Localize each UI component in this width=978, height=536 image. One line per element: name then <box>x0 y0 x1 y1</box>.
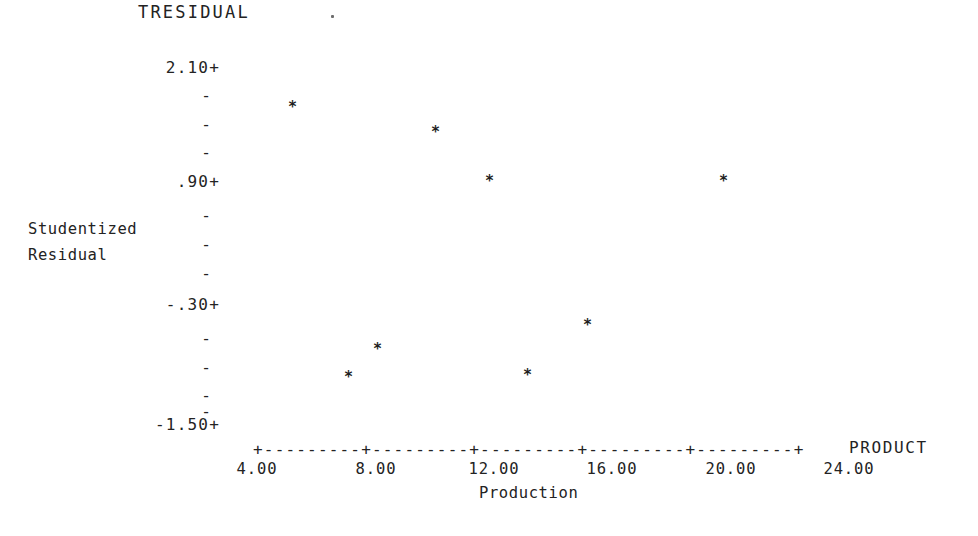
y-tick-minor: - <box>104 404 212 420</box>
y-tick-minor: - <box>104 237 212 253</box>
x-tick-8.00: 8.00 <box>341 462 411 478</box>
y-axis: 2.10+ .90+ -.30+ -1.50+ - - - - - - - - … <box>0 0 260 460</box>
x-tick-16.00: 16.00 <box>577 462 647 478</box>
x-tick-12.00: 12.00 <box>459 462 529 478</box>
data-point: * <box>521 368 534 382</box>
y-tick-minor: - <box>104 266 212 282</box>
data-point: * <box>371 342 384 356</box>
y-tick-minor: - <box>104 331 212 347</box>
data-point: * <box>286 100 299 114</box>
y-tick-minor: - <box>104 117 212 133</box>
scatter-plot-canvas: TRESIDUAL Studentized Residual 2.10+ .90… <box>0 0 978 536</box>
y-tick-minor: - <box>104 388 212 404</box>
data-point: * <box>581 318 594 332</box>
data-point: * <box>483 174 496 188</box>
x-tick-24.00: 24.00 <box>814 462 884 478</box>
data-point: * <box>342 370 355 384</box>
x-axis-line: +---------+---------+---------+---------… <box>253 440 804 459</box>
x-tick-20.00: 20.00 <box>696 462 766 478</box>
y-tick-minor: - <box>104 360 212 376</box>
data-point: * <box>717 174 730 188</box>
y-tick-minor: - <box>104 145 212 161</box>
x-tick-4.00: 4.00 <box>222 462 292 478</box>
scan-speck <box>331 15 334 18</box>
x-axis-variable-label: PRODUCT <box>849 440 928 456</box>
y-tick-major--0.30: -.30+ <box>112 297 220 313</box>
y-tick-minor: - <box>104 208 212 224</box>
y-tick-major-0.90: .90+ <box>112 174 220 190</box>
x-axis-title: Production <box>479 486 578 502</box>
y-tick-major-2.10: 2.10+ <box>112 60 220 76</box>
y-tick-minor: - <box>104 88 212 104</box>
data-point: * <box>429 125 442 139</box>
